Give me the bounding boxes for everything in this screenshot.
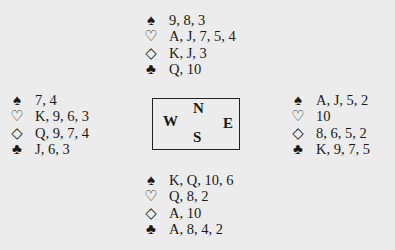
club-icon: ♣ xyxy=(142,61,160,77)
west-hearts: K, 9, 6, 3 xyxy=(35,108,89,124)
compass-south: S xyxy=(193,129,201,146)
west-diamonds: Q, 9, 7, 4 xyxy=(35,125,89,141)
west-hearts-row: ♡ K, 9, 6, 3 xyxy=(8,108,89,124)
north-diamonds: K, J, 3 xyxy=(169,45,207,61)
spade-icon: ♠ xyxy=(142,12,160,28)
club-icon: ♣ xyxy=(8,141,26,157)
west-diamonds-row: ◇ Q, 9, 7, 4 xyxy=(8,125,89,141)
west-hand: ♠ 7, 4 ♡ K, 9, 6, 3 ◇ Q, 9, 7, 4 ♣ J, 6,… xyxy=(8,92,89,157)
spade-icon: ♠ xyxy=(289,92,307,108)
west-clubs: J, 6, 3 xyxy=(35,141,70,157)
diamond-icon: ◇ xyxy=(8,125,26,141)
south-spades: K, Q, 10, 6 xyxy=(169,172,233,188)
diamond-icon: ◇ xyxy=(289,125,307,141)
heart-icon: ♡ xyxy=(289,108,307,124)
south-hearts: Q, 8, 2 xyxy=(169,188,208,204)
compass-box: N W E S xyxy=(152,98,240,150)
south-diamonds-row: ◇ A, 10 xyxy=(142,205,233,221)
spade-icon: ♠ xyxy=(142,172,160,188)
south-spades-row: ♠ K, Q, 10, 6 xyxy=(142,172,233,188)
east-spades-row: ♠ A, J, 5, 2 xyxy=(289,92,370,108)
south-diamonds: A, 10 xyxy=(169,205,201,221)
north-spades-row: ♠ 9, 8, 3 xyxy=(142,12,236,28)
north-clubs-row: ♣ Q, 10 xyxy=(142,61,236,77)
north-hand: ♠ 9, 8, 3 ♡ A, J, 7, 5, 4 ◇ K, J, 3 ♣ Q,… xyxy=(142,12,236,77)
west-clubs-row: ♣ J, 6, 3 xyxy=(8,141,89,157)
heart-icon: ♡ xyxy=(142,188,160,204)
club-icon: ♣ xyxy=(142,221,160,237)
compass-west: W xyxy=(163,113,178,130)
north-hearts-row: ♡ A, J, 7, 5, 4 xyxy=(142,28,236,44)
east-hearts-row: ♡ 10 xyxy=(289,108,370,124)
south-hand: ♠ K, Q, 10, 6 ♡ Q, 8, 2 ◇ A, 10 ♣ A, 8, … xyxy=(142,172,233,237)
north-clubs: Q, 10 xyxy=(169,61,201,77)
north-spades: 9, 8, 3 xyxy=(169,12,205,28)
heart-icon: ♡ xyxy=(142,28,160,44)
spade-icon: ♠ xyxy=(8,92,26,108)
south-clubs-row: ♣ A, 8, 4, 2 xyxy=(142,221,233,237)
west-spades-row: ♠ 7, 4 xyxy=(8,92,89,108)
north-diamonds-row: ◇ K, J, 3 xyxy=(142,45,236,61)
south-clubs: A, 8, 4, 2 xyxy=(169,221,223,237)
heart-icon: ♡ xyxy=(8,108,26,124)
north-hearts: A, J, 7, 5, 4 xyxy=(169,28,236,44)
east-diamonds-row: ◇ 8, 6, 5, 2 xyxy=(289,125,370,141)
east-diamonds: 8, 6, 5, 2 xyxy=(316,125,367,141)
east-hearts: 10 xyxy=(316,108,331,124)
south-hearts-row: ♡ Q, 8, 2 xyxy=(142,188,233,204)
club-icon: ♣ xyxy=(289,141,307,157)
diamond-icon: ◇ xyxy=(142,205,160,221)
compass-north: N xyxy=(193,100,204,117)
east-clubs-row: ♣ K, 9, 7, 5 xyxy=(289,141,370,157)
east-hand: ♠ A, J, 5, 2 ♡ 10 ◇ 8, 6, 5, 2 ♣ K, 9, 7… xyxy=(289,92,370,157)
east-clubs: K, 9, 7, 5 xyxy=(316,141,370,157)
east-spades: A, J, 5, 2 xyxy=(316,92,368,108)
diamond-icon: ◇ xyxy=(142,45,160,61)
west-spades: 7, 4 xyxy=(35,92,57,108)
compass-east: E xyxy=(223,115,233,132)
